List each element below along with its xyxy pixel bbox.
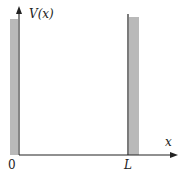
- x-axis-label: x: [165, 136, 172, 148]
- potential-well-diagram: [0, 0, 179, 173]
- origin-tick-label: 0: [8, 159, 16, 171]
- right-wall-tick-label: L: [124, 159, 132, 171]
- left-wall: [10, 19, 18, 155]
- x-axis-arrow-icon: [170, 152, 178, 158]
- y-axis-label: V(x): [29, 8, 54, 20]
- y-axis-arrow-icon: [16, 6, 22, 14]
- right-wall: [129, 17, 139, 155]
